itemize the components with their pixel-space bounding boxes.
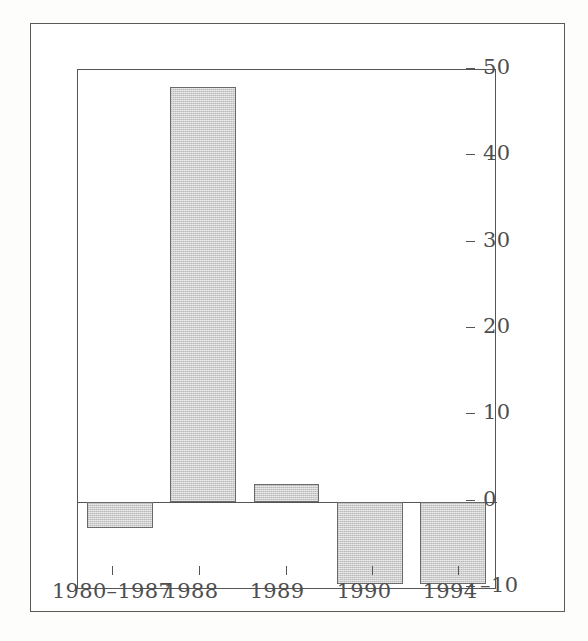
ytick-label-0: 0 <box>483 489 497 510</box>
bar-1988[interactable] <box>170 87 236 501</box>
xtick-1 <box>112 566 113 575</box>
bar-1980-1987[interactable] <box>87 502 153 528</box>
ytick-40 <box>466 154 475 155</box>
ytick-label-50: 50 <box>483 57 511 78</box>
xtick-2 <box>199 566 200 575</box>
xtick-5 <box>458 566 459 575</box>
ytick-20 <box>466 327 475 328</box>
bar-1994[interactable] <box>420 502 486 584</box>
xtick-3 <box>286 566 287 575</box>
figure-container: 50 40 30 20 10 0 –10 1980–1987 1988 1989… <box>0 0 588 641</box>
xtick-label-1988: 1988 <box>151 580 231 602</box>
bar-1990[interactable] <box>337 502 403 584</box>
ytick-50 <box>466 68 475 69</box>
xtick-label-1989: 1989 <box>237 580 317 602</box>
plot-area <box>77 69 496 589</box>
ytick-30 <box>466 241 475 242</box>
xtick-label-1990: 1990 <box>324 580 404 602</box>
figure-frame: 50 40 30 20 10 0 –10 1980–1987 1988 1989… <box>30 23 565 612</box>
bar-1989[interactable] <box>254 484 320 501</box>
xtick-4 <box>372 566 373 575</box>
ytick-label-10: 10 <box>483 402 511 423</box>
ytick-0 <box>466 500 475 501</box>
ytick-label-30: 30 <box>483 230 511 251</box>
ytick-label-40: 40 <box>483 143 511 164</box>
ytick-10 <box>466 413 475 414</box>
ytick-label-20: 20 <box>483 316 511 337</box>
xtick-label-1994: 1994 <box>410 580 490 602</box>
